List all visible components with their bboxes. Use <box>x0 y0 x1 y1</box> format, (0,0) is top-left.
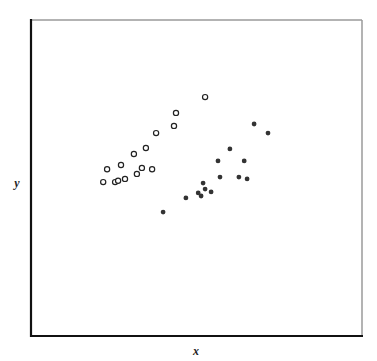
x-axis-label: x <box>192 344 199 358</box>
filled-circle-marker <box>237 175 242 180</box>
filled-circle-marker <box>161 210 166 215</box>
open-circle-marker <box>131 151 136 156</box>
filled-circle-marker <box>184 196 189 201</box>
open-circle-marker <box>154 131 159 136</box>
series-filled <box>161 122 271 215</box>
open-circle-marker <box>105 167 110 172</box>
open-circle-marker <box>118 162 123 167</box>
open-circle-marker <box>139 165 144 170</box>
filled-circle-marker <box>242 159 247 164</box>
open-circle-marker <box>134 171 139 176</box>
y-axis-label: y <box>12 176 20 190</box>
filled-circle-marker <box>228 147 233 152</box>
filled-circle-marker <box>209 190 214 195</box>
open-circle-marker <box>203 95 208 100</box>
filled-circle-marker <box>201 181 206 186</box>
open-circle-marker <box>173 110 178 115</box>
filled-circle-marker <box>252 122 257 127</box>
filled-circle-marker <box>199 194 204 199</box>
open-circle-marker <box>171 123 176 128</box>
filled-circle-marker <box>203 187 208 192</box>
open-circle-marker <box>143 145 148 150</box>
filled-circle-marker <box>266 131 271 136</box>
data-points <box>101 95 271 215</box>
filled-circle-marker <box>245 177 250 182</box>
series-open <box>101 95 208 185</box>
open-circle-marker <box>101 180 106 185</box>
open-circle-marker <box>116 178 121 183</box>
open-circle-marker <box>122 176 127 181</box>
filled-circle-marker <box>218 175 223 180</box>
filled-circle-marker <box>216 159 221 164</box>
open-circle-marker <box>150 167 155 172</box>
scatter-chart: x y <box>0 0 377 361</box>
